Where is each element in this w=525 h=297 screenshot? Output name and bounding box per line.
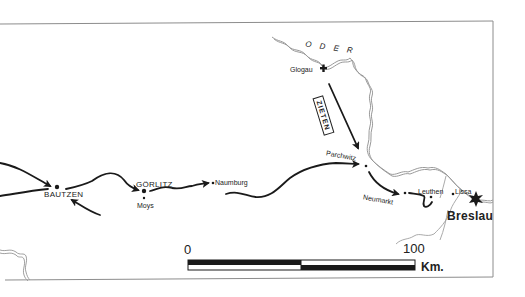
- town-markers: [55, 165, 455, 200]
- scale-unit-label: Km.: [421, 261, 444, 273]
- place-label-gorlitz: GÖRLITZ: [136, 181, 173, 189]
- oder-river: [272, 37, 493, 203]
- place-label-moys: Moys: [137, 202, 154, 209]
- town-dot-icon: [430, 196, 433, 199]
- place-label-leuthen: Leuthen: [418, 188, 443, 195]
- town-dot-icon: [404, 192, 407, 195]
- town-dot-icon: [143, 197, 145, 199]
- fortress-cross-icon: [320, 65, 327, 73]
- place-label-bautzen: BAUTZEN: [44, 191, 83, 199]
- place-label-naumburg: Naumburg: [215, 179, 248, 186]
- town-dot-icon: [212, 182, 215, 185]
- town-dot-icon: [55, 185, 59, 189]
- town-dot-icon: [365, 165, 368, 168]
- scale-bar: [188, 260, 415, 270]
- place-label-breslau: Breslau: [447, 210, 493, 222]
- place-label-glogau: Glogau: [290, 66, 313, 73]
- scale-start-label: 0: [184, 243, 191, 256]
- town-dot-icon: [142, 189, 146, 193]
- scale-end-label: 100: [403, 242, 425, 255]
- river-southwest: [0, 250, 30, 281]
- map-canvas: [0, 0, 525, 297]
- place-label-lissa: Lissa: [455, 188, 471, 195]
- town-dot-icon: [452, 193, 455, 196]
